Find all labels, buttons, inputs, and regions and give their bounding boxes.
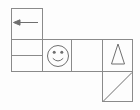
smiley-eye-right: [60, 51, 63, 54]
grid-figure-puzzle: [0, 0, 140, 110]
smiley-eye-left: [53, 51, 56, 54]
